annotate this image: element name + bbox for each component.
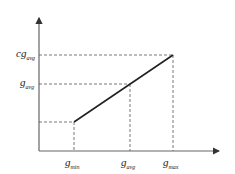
x-label-g-avg: gavg: [121, 156, 135, 170]
x-label-g-min: gmin: [65, 156, 80, 170]
main-line: [74, 55, 173, 122]
y-label-g-avg: gavg: [20, 76, 34, 90]
diagram-canvas: cgavg gavg gmin gavg gmax: [0, 0, 235, 174]
y-label-cg-avg: cgavg: [16, 47, 35, 61]
x-label-g-max: gmax: [163, 156, 179, 170]
